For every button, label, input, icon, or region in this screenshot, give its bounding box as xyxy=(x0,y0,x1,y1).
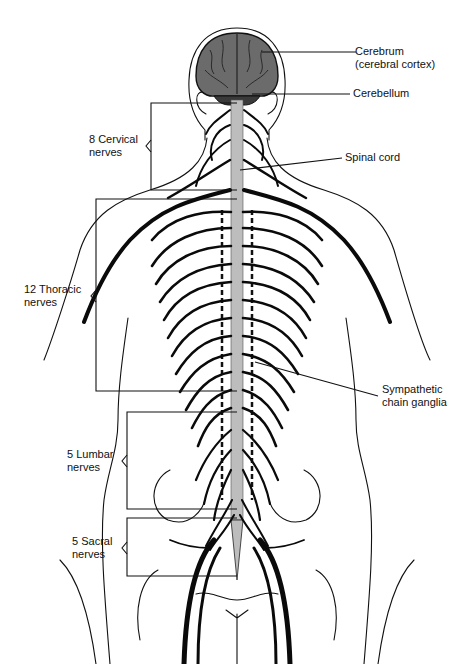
label-sacral-nerves: 5 Sacral nerves xyxy=(72,535,112,561)
label-cervical-nerves: 8 Cervical nerves xyxy=(89,133,138,159)
label-spinal-cord-line1: Spinal cord xyxy=(345,151,400,164)
label-lumbar-nerves: 5 Lumbar nerves xyxy=(67,448,113,474)
label-cervical-line1: 8 Cervical xyxy=(89,133,138,146)
label-cerebellum: Cerebellum xyxy=(353,87,409,100)
label-lumbar-line1: 5 Lumbar xyxy=(67,448,113,461)
label-cervical-line2: nerves xyxy=(89,146,138,159)
label-thoracic-line1: 12 Thoracic xyxy=(24,283,81,296)
label-sacral-line2: nerves xyxy=(72,548,112,561)
cerebrum-illustration xyxy=(196,33,278,96)
cauda-equina xyxy=(231,520,243,580)
label-sacral-line1: 5 Sacral xyxy=(72,535,112,548)
label-cerebrum-line1: Cerebrum xyxy=(355,45,435,58)
spinal-cord-illustration xyxy=(231,100,243,520)
label-thoracic-nerves: 12 Thoracic nerves xyxy=(24,283,81,309)
right-leader-lines xyxy=(240,52,378,396)
label-sympathetic-line2: chain ganglia xyxy=(382,396,447,409)
label-lumbar-line2: nerves xyxy=(67,461,113,474)
label-cerebrum: Cerebrum (cerebral cortex) xyxy=(355,45,435,71)
label-spinal-cord: Spinal cord xyxy=(345,151,400,164)
label-sympathetic-chain: Sympathetic chain ganglia xyxy=(382,383,447,409)
label-cerebrum-line2: (cerebral cortex) xyxy=(355,58,435,71)
label-thoracic-line2: nerves xyxy=(24,296,81,309)
label-cerebellum-line1: Cerebellum xyxy=(353,87,409,100)
label-sympathetic-line1: Sympathetic xyxy=(382,383,447,396)
